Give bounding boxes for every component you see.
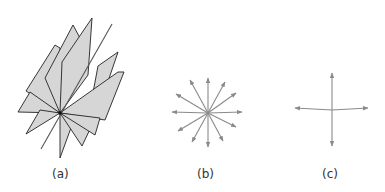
figure-canvas: [0, 0, 385, 192]
arrow-b-3: [208, 93, 236, 113]
common-point: [58, 111, 62, 115]
arrow-b-2: [208, 82, 225, 113]
panel-a-planes: [18, 18, 124, 158]
panel-b-arrows: [172, 78, 242, 147]
panel-a-label: (a): [52, 167, 69, 181]
arrow-b-4: [208, 112, 242, 113]
arrow-c-left: [295, 108, 332, 110]
panel-c-arrows: [295, 73, 368, 146]
arrow-c-right: [332, 108, 368, 110]
panel-c-label: (c): [322, 167, 338, 181]
arrow-b-10: [172, 112, 208, 113]
plane-7: [26, 110, 60, 134]
panel-b-label: (b): [197, 167, 214, 181]
